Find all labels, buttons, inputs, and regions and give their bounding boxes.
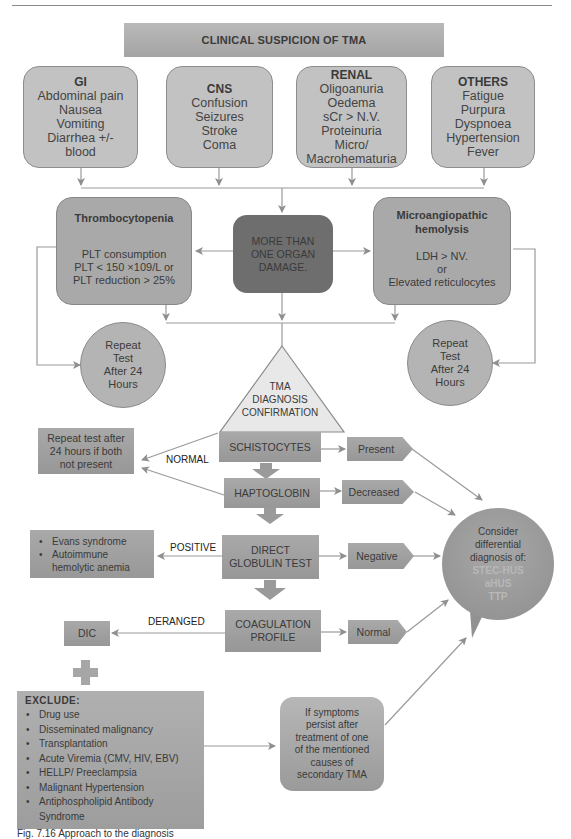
test-schistocytes: SCHISTOCYTES	[219, 432, 321, 462]
edge-label-normal: NORMAL	[166, 454, 209, 465]
symptoms-persist-box: If symptoms persist after treatment of o…	[280, 697, 384, 791]
persist-line: treatment of one	[295, 732, 370, 745]
exclude-item: Acute Viremia (CMV, HIV, EBV)	[39, 752, 196, 767]
result-label: Present	[358, 443, 394, 456]
exclude-item: Transplantation	[39, 737, 196, 752]
symptom-item: Abdominal pain	[24, 89, 137, 103]
plus-icon	[73, 660, 98, 685]
edge-label-positive: POSITIVE	[170, 542, 216, 553]
circle-line: Repeat	[431, 337, 470, 350]
test-haptoglobin: HAPTOGLOBIN	[224, 478, 320, 508]
tma-diagnosis-confirmation-label: TMA DIAGNOSIS CONFIRMATION	[210, 380, 350, 419]
symptom-box-others: OTHERS Fatigue Purpura Dyspnoea Hyperten…	[431, 66, 535, 168]
positive-outcomes-box: Evans syndrome Autoimmunehemolytic anemi…	[30, 530, 154, 578]
box-line: 24 hours if both	[47, 445, 125, 458]
persist-line: of the mentioned	[295, 744, 370, 757]
group-title: GI	[24, 75, 137, 89]
test-name: DIRECT	[229, 544, 312, 557]
group-title: OTHERS	[432, 75, 534, 89]
exclude-item: Drug use	[39, 708, 196, 723]
triangle-line: DIAGNOSIS	[210, 393, 350, 406]
exclude-item: Disseminated malignancy	[39, 723, 196, 738]
persist-line: causes of	[295, 757, 370, 770]
repeat-if-absent-box: Repeat test after 24 hours if both not p…	[38, 428, 134, 474]
symptom-box-renal: RENAL Oligoanuria Oedema sCr > N.V. Prot…	[296, 66, 407, 168]
criteria-line: Elevated reticulocytes	[374, 276, 510, 289]
bubble-line: diagnosis of:	[470, 551, 526, 564]
persist-line: secondary TMA	[295, 769, 370, 782]
bubble-line: differential	[475, 538, 521, 551]
test-coagulation-profile: COAGULATION PROFILE	[225, 610, 321, 652]
exclude-item: HELLP/ Preeclampsia	[39, 766, 196, 781]
test-name: HAPTOGLOBIN	[234, 487, 310, 500]
box-title: hemolysis	[374, 222, 510, 236]
box-title: Thrombocytopenia	[57, 212, 191, 224]
group-title: RENAL	[297, 68, 406, 82]
symptom-item: Macrohematuria	[297, 152, 406, 166]
node-line: ONE ORGAN	[251, 248, 315, 261]
diagnosis-stec-hus: STEC-HUS	[472, 564, 523, 577]
result-label: Negative	[356, 550, 397, 563]
box-line: Repeat test after	[47, 432, 125, 445]
outcome-item: Evans syndrome	[52, 535, 154, 548]
circle-line: Hours	[104, 378, 143, 391]
dic-label: DIC	[78, 627, 96, 640]
test-name: PROFILE	[235, 631, 311, 644]
figure-caption: Fig. 7.16 Approach to the diagnosis	[17, 828, 174, 839]
repeat-test-right: Repeat Test After 24 Hours	[407, 320, 493, 406]
bubble-line: Consider	[478, 525, 518, 538]
repeat-test-left: Repeat Test After 24 Hours	[80, 322, 166, 408]
header-title: CLINICAL SUSPICION OF TMA	[202, 34, 367, 46]
symptom-box-gi: GI Abdominal pain Nausea Vomiting Diarrh…	[23, 66, 138, 168]
symptom-item: Hypertension	[432, 131, 534, 145]
exclude-box: EXCLUDE: Drug use Disseminated malignanc…	[17, 691, 204, 829]
clinical-suspicion-header: CLINICAL SUSPICION OF TMA	[124, 23, 444, 57]
criteria-line: LDH > NV.	[374, 250, 510, 263]
symptom-item: Confusion	[167, 96, 272, 110]
circle-line: After 24	[104, 365, 143, 378]
thrombocytopenia-box: Thrombocytopenia PLT consumption PLT < 1…	[56, 197, 192, 305]
symptom-item: Stroke	[167, 124, 272, 138]
test-direct-globulin: DIRECT GLOBULIN TEST	[222, 535, 319, 579]
hemolysis-box: Microangiopathic hemolysis LDH > NV. or …	[373, 197, 511, 305]
result-decreased: Decreased	[342, 480, 414, 504]
circle-line: After 24	[431, 363, 470, 376]
symptom-item: Oedema	[297, 96, 406, 110]
criteria-line: PLT consumption	[57, 248, 191, 261]
circle-line: Test	[431, 350, 470, 363]
symptom-item: Proteinuria	[297, 124, 406, 138]
dic-box: DIC	[64, 621, 110, 646]
symptom-item: Fatigue	[432, 89, 534, 103]
symptom-item: Nausea	[24, 103, 137, 117]
outcome-item: Autoimmunehemolytic anemia	[52, 548, 154, 574]
edge-label-deranged: DERANGED	[148, 616, 205, 627]
result-negative: Negative	[348, 543, 414, 569]
symptom-item: Oligoanuria	[297, 82, 406, 96]
triangle-line: TMA	[210, 380, 350, 393]
test-name: GLOBULIN TEST	[229, 557, 312, 570]
more-than-one-organ-damage-node: MORE THAN ONE ORGAN DAMAGE.	[233, 215, 333, 293]
node-line: MORE THAN	[251, 235, 315, 248]
box-line: not present	[47, 458, 125, 471]
criteria-line: or	[374, 263, 510, 276]
circle-line: Test	[104, 352, 143, 365]
symptom-item: Coma	[167, 138, 272, 152]
circle-line: Hours	[431, 376, 470, 389]
node-line: DAMAGE.	[251, 261, 315, 274]
exclude-title: EXCLUDE:	[25, 695, 196, 706]
group-title: CNS	[167, 82, 272, 96]
box-title: Microangiopathic	[374, 208, 510, 222]
symptom-item: blood	[24, 145, 137, 159]
outcome-line: Autoimmune	[52, 549, 108, 560]
diagnosis-ttp: TTP	[489, 590, 508, 603]
symptom-item: Micro/	[297, 138, 406, 152]
result-label: Decreased	[349, 486, 400, 499]
exclude-item: Antiphospholipid Antibody Syndrome	[39, 795, 179, 824]
symptom-item: Dyspnoea	[432, 117, 534, 131]
criteria-line: PLT < 150 ×109/L or	[57, 261, 191, 274]
result-label: Normal	[357, 626, 391, 639]
symptom-item: Diarrhea +/-	[24, 131, 137, 145]
test-name: COAGULATION	[235, 618, 311, 631]
symptom-item: Fever	[432, 145, 534, 159]
exclude-item: Malignant Hypertension	[39, 781, 196, 796]
